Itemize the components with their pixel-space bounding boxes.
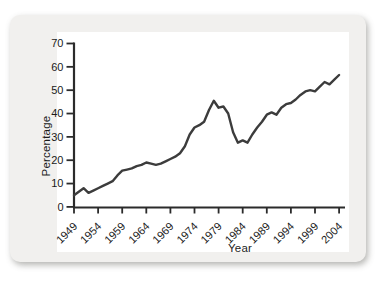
x-tick-label: 1979	[198, 220, 224, 246]
y-tick-label: 10	[51, 177, 63, 189]
data-line	[74, 75, 339, 195]
y-tick-label: 30	[51, 131, 63, 143]
x-tick-label: 1989	[246, 220, 272, 246]
x-tick-label: 1974	[174, 220, 200, 246]
x-tick-label: 1959	[102, 220, 128, 246]
x-tick-label: 1949	[54, 220, 80, 246]
x-tick-label: 1954	[78, 220, 104, 246]
line-chart: 0102030405060701949195419591964196919741…	[0, 0, 378, 282]
x-tick-label: 1984	[222, 220, 248, 246]
y-tick-label: 0	[57, 201, 63, 213]
y-tick-label: 70	[51, 37, 63, 49]
x-tick-label: 1999	[295, 220, 321, 246]
y-tick-label: 40	[51, 107, 63, 119]
y-tick-label: 50	[51, 84, 63, 96]
x-tick-label: 1964	[126, 220, 152, 246]
x-tick-label: 1969	[150, 220, 176, 246]
x-tick-label: 2004	[319, 220, 345, 246]
page: { "page": { "background_color": "#ffffff…	[0, 0, 378, 282]
y-tick-label: 20	[51, 154, 63, 166]
x-tick-label: 1994	[271, 220, 297, 246]
y-tick-label: 60	[51, 61, 63, 73]
